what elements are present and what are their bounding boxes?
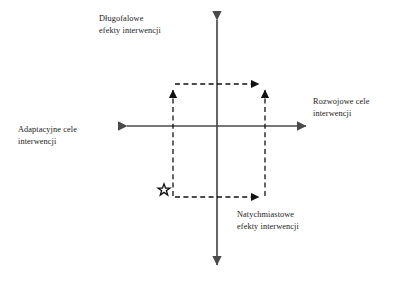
axis-label-top-line2: efekty interwencji — [99, 25, 161, 37]
axis-label-right-line2: interwencji — [313, 108, 369, 120]
axis-label-left: Adaptacyjne cele interwencji — [18, 124, 77, 147]
axis-label-left-line1: Adaptacyjne cele — [18, 124, 77, 136]
star-outline-icon — [158, 184, 170, 195]
axis-label-bottom-line1: Natychmiastowe — [237, 209, 299, 221]
axis-label-right: Rozwojowe cele interwencji — [313, 96, 369, 119]
axis-label-left-line2: interwencji — [18, 136, 77, 148]
axis-label-right-line1: Rozwojowe cele — [313, 96, 369, 108]
axis-label-bottom-line2: efekty interwencji — [237, 221, 299, 233]
quadrant-diagram: Długofalowe efekty interwencji Rozwojowe… — [0, 0, 405, 281]
axis-label-bottom: Natychmiastowe efekty interwencji — [237, 209, 299, 232]
axis-label-top-line1: Długofalowe — [99, 13, 161, 25]
axis-label-top: Długofalowe efekty interwencji — [99, 13, 161, 36]
